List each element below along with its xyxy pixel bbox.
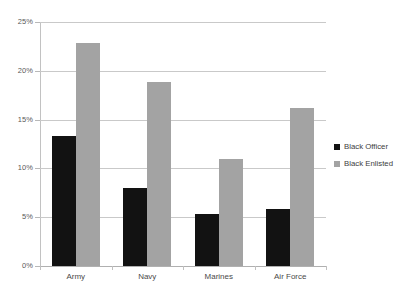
chart-legend: Black OfficerBlack Enlisted xyxy=(334,138,414,172)
y-axis-tick-labels: 0%5%10%15%20%25% xyxy=(0,0,33,301)
bar-marines-black-enlisted xyxy=(219,159,243,266)
bar-air-force-black-enlisted xyxy=(290,108,314,266)
y-axis-tick-label: 0% xyxy=(1,262,33,270)
bar-air-force-black-officer xyxy=(266,209,290,266)
bar-navy-black-officer xyxy=(123,188,147,266)
x-axis-separator-tick xyxy=(255,266,256,270)
y-axis-tick-label: 20% xyxy=(1,67,33,75)
y-axis-tick-mark xyxy=(35,120,40,121)
legend-label: Black Officer xyxy=(344,142,388,151)
legend-item-black-officer[interactable]: Black Officer xyxy=(334,138,414,155)
bar-army-black-enlisted xyxy=(76,43,100,266)
y-axis-tick-mark xyxy=(35,71,40,72)
bar-army-black-officer xyxy=(52,136,76,266)
y-axis-tick-label: 25% xyxy=(1,18,33,26)
x-axis-separator-tick xyxy=(40,266,41,270)
y-axis-tick-label: 15% xyxy=(1,116,33,124)
x-axis-separator-tick xyxy=(326,266,327,270)
legend-swatch-icon xyxy=(334,144,340,150)
gridline xyxy=(40,22,326,23)
legend-swatch-icon xyxy=(334,161,340,167)
x-axis-separator-tick xyxy=(183,266,184,270)
legend-label: Black Enlisted xyxy=(344,159,393,168)
y-axis-tick-label: 5% xyxy=(1,213,33,221)
bar-chart: 0%5%10%15%20%25% Black OfficerBlack Enli… xyxy=(0,0,414,301)
y-axis-tick-mark xyxy=(35,217,40,218)
bar-navy-black-enlisted xyxy=(147,82,171,266)
y-axis-tick-mark xyxy=(35,22,40,23)
plot-area xyxy=(40,22,326,266)
x-axis-category-label: Army xyxy=(40,272,112,282)
x-axis-category-label: Navy xyxy=(112,272,184,282)
x-axis-category-label: Air Force xyxy=(255,272,327,282)
legend-item-black-enlisted[interactable]: Black Enlisted xyxy=(334,155,414,172)
bar-marines-black-officer xyxy=(195,214,219,266)
y-axis-tick-mark xyxy=(35,168,40,169)
y-axis-tick-label: 10% xyxy=(1,164,33,172)
x-axis-category-label: Marines xyxy=(183,272,255,282)
x-axis-separator-tick xyxy=(112,266,113,270)
